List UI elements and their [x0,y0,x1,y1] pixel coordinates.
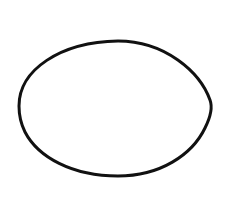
drawing-canvas [0,0,225,213]
hand-drawn-ellipse [19,41,211,176]
